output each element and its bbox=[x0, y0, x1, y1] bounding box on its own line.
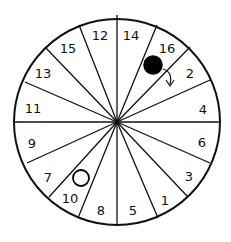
segment-label: 15 bbox=[60, 41, 77, 56]
segment-label: 7 bbox=[44, 170, 52, 185]
segment-label: 6 bbox=[198, 135, 206, 150]
segment-label: 4 bbox=[199, 102, 207, 117]
segment-label: 3 bbox=[185, 169, 193, 184]
segment-label: 12 bbox=[92, 28, 109, 43]
spoke-line bbox=[45, 47, 117, 122]
roulette-wheel: 14162463158107911131512 bbox=[0, 0, 231, 242]
segment-label: 5 bbox=[129, 203, 137, 218]
segment-label: 2 bbox=[186, 66, 194, 81]
segment-label: 16 bbox=[159, 41, 176, 56]
black-ball-piece[interactable] bbox=[144, 56, 162, 74]
spoke-line bbox=[117, 80, 210, 122]
segment-label: 11 bbox=[25, 101, 42, 116]
spoke-line bbox=[117, 122, 210, 163]
segment-label: 14 bbox=[123, 28, 140, 43]
segment-label: 13 bbox=[35, 66, 52, 81]
spoke-line bbox=[117, 122, 188, 197]
spoke-line bbox=[117, 122, 158, 218]
segment-label: 8 bbox=[97, 203, 105, 218]
segment-label: 1 bbox=[161, 193, 169, 208]
white-ball-piece[interactable] bbox=[73, 170, 89, 186]
segment-label: 10 bbox=[62, 191, 79, 206]
segment-label: 9 bbox=[28, 136, 36, 151]
